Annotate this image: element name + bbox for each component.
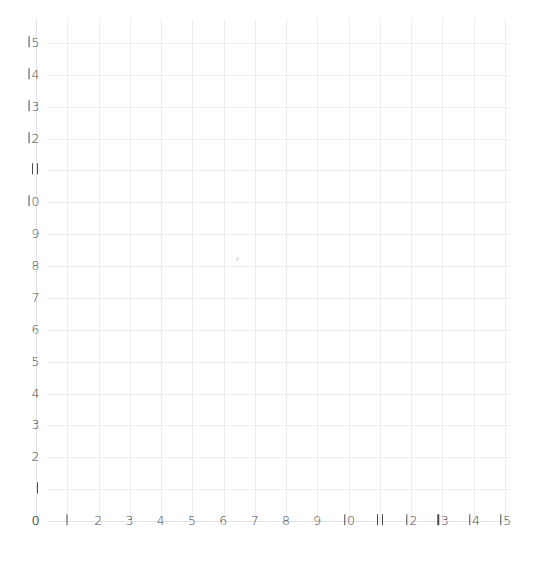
x-tick-label-1 <box>65 514 70 528</box>
x-tick-label-14: 4 <box>467 514 480 528</box>
digit-one-glyph <box>35 482 40 493</box>
gridline-vertical-6 <box>224 19 225 522</box>
gridline-vertical-5 <box>192 19 193 522</box>
gridline-vertical-8 <box>286 19 287 522</box>
gridline-horizontal-8 <box>48 266 510 267</box>
gridline-vertical-11 <box>380 19 381 522</box>
gridline-vertical-15 <box>505 19 506 522</box>
y-tick-label-15: 5 <box>27 36 40 50</box>
x-tick-label-0: 0 <box>32 515 40 528</box>
gridline-horizontal-7 <box>48 298 510 299</box>
x-tick-label-10: 0 <box>342 514 355 528</box>
y-tick-label-5: 5 <box>32 355 40 368</box>
y-tick-label-12: 2 <box>27 132 40 146</box>
x-tick-label-7: 7 <box>251 515 259 528</box>
digit-one-glyph <box>27 132 32 143</box>
gridline-horizontal-15 <box>48 43 510 44</box>
x-tick-label-9: 9 <box>313 515 321 528</box>
coordinate-grid-graph: 02345678902345 02345678902345 <box>0 0 555 571</box>
gridline-horizontal-13 <box>48 107 510 108</box>
digit-one-glyph <box>342 514 347 525</box>
digit-one-glyph <box>380 514 385 525</box>
digit-one-glyph <box>498 514 503 525</box>
y-tick-label-10: 0 <box>27 196 40 210</box>
gridline-vertical-14 <box>474 19 475 522</box>
x-tick-label-5: 5 <box>188 515 196 528</box>
gridline-horizontal-12 <box>48 139 510 140</box>
gridline-horizontal-14 <box>48 75 510 76</box>
gridline-horizontal-5 <box>48 362 510 363</box>
gridline-horizontal-4 <box>48 394 510 395</box>
gridline-horizontal-10 <box>48 202 510 203</box>
y-tick-label-9: 9 <box>32 228 40 241</box>
gridline-horizontal-3 <box>48 425 510 426</box>
y-tick-label-2: 2 <box>32 451 40 464</box>
x-tick-label-13: 3 <box>436 514 449 528</box>
x-tick-label-12: 2 <box>404 514 417 528</box>
y-tick-label-8: 8 <box>32 260 40 273</box>
y-tick-label-13: 3 <box>27 100 40 114</box>
digit-one-glyph <box>27 36 32 47</box>
digit-one-glyph <box>404 514 409 525</box>
digit-one-glyph <box>436 514 441 525</box>
gridline-vertical-4 <box>161 19 162 522</box>
digit-one-glyph <box>27 196 32 207</box>
digit-one-glyph <box>65 514 70 525</box>
x-tick-label-11 <box>375 514 385 528</box>
y-tick-label-11 <box>30 164 40 178</box>
stray-mark <box>236 257 239 261</box>
gridline-vertical-12 <box>411 19 412 522</box>
y-tick-label-7: 7 <box>32 292 40 305</box>
y-tick-label-4: 4 <box>32 387 40 400</box>
gridline-vertical-2 <box>99 19 100 522</box>
gridline-vertical-9 <box>317 19 318 522</box>
gridline-vertical-3 <box>130 19 131 522</box>
y-tick-label-3: 3 <box>32 419 40 432</box>
x-tick-label-2: 2 <box>94 515 102 528</box>
digit-one-glyph <box>27 68 32 79</box>
gridline-horizontal-1 <box>48 489 510 490</box>
x-tick-label-4: 4 <box>157 515 165 528</box>
gridline-vertical-10 <box>349 19 350 522</box>
gridline-horizontal-6 <box>48 330 510 331</box>
x-tick-label-15: 5 <box>498 514 511 528</box>
gridline-vertical-1 <box>67 19 68 522</box>
gridline-vertical-7 <box>255 19 256 522</box>
y-tick-label-14: 4 <box>27 68 40 82</box>
digit-one-glyph <box>467 514 472 525</box>
plot-area[interactable] <box>48 19 510 522</box>
gridline-horizontal-9 <box>48 234 510 235</box>
y-tick-label-1 <box>35 482 40 496</box>
gridline-vertical-13 <box>442 19 443 522</box>
x-tick-label-3: 3 <box>126 515 134 528</box>
x-tick-label-8: 8 <box>282 515 290 528</box>
gridline-horizontal-11 <box>48 170 510 171</box>
x-tick-label-6: 6 <box>219 515 227 528</box>
gridline-horizontal-2 <box>48 457 510 458</box>
y-tick-label-6: 6 <box>32 324 40 337</box>
digit-one-glyph <box>35 164 40 175</box>
digit-one-glyph <box>27 100 32 111</box>
